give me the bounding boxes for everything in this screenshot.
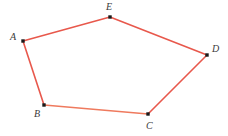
edge-C-B xyxy=(44,105,148,114)
vertex-label-e: E xyxy=(106,2,112,12)
edge-layer xyxy=(23,17,207,114)
vertex-point-b xyxy=(42,103,45,106)
vertex-point-d xyxy=(205,53,208,56)
edge-E-D xyxy=(110,17,207,55)
vertex-point-e xyxy=(108,15,111,18)
vertex-label-b: B xyxy=(34,109,40,119)
vertex-label-c: C xyxy=(146,121,153,131)
vertex-point-a xyxy=(21,39,24,42)
vertex-label-d: D xyxy=(212,44,219,54)
edge-B-A xyxy=(23,41,44,105)
polygon-figure: AEDCB xyxy=(0,0,228,136)
vertex-point-c xyxy=(146,112,149,115)
vertex-label-a: A xyxy=(10,32,16,42)
edge-D-C xyxy=(148,55,207,114)
edge-A-E xyxy=(23,17,110,41)
vertex-layer xyxy=(21,15,208,115)
